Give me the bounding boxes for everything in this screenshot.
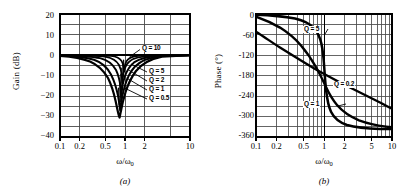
panel-a-x-axis-sub: 0 [131, 160, 134, 167]
panel-a-curve-label-q5: Q = 5 [148, 68, 165, 75]
bode-plot-figure: Gain (dB) 20 10 0 −10 −20 −30 −40 [0, 0, 403, 196]
panel-a-curve-label-q05: Q = 0.5 [148, 95, 170, 102]
panel-a-gain: Gain (dB) 20 10 0 −10 −20 −30 −40 [0, 0, 200, 196]
panel-a-curve-label-q2: Q = 2 [148, 77, 165, 84]
panel-a-caption: (a) [95, 176, 155, 186]
panel-b-x-axis-sub: 0 [330, 160, 333, 167]
panel-b-caption: (b) [294, 176, 354, 186]
panel-b-x-axis-num: ω [315, 156, 321, 166]
panel-b-xtick-6: 10 [377, 142, 403, 151]
panel-b-curve-label-q5: Q = 5 [303, 26, 320, 33]
panel-b-xtick-1: 0.2 [262, 142, 292, 151]
panel-b-x-axis-label: ω/ω0 [274, 156, 374, 167]
panel-a-x-axis-num: ω [116, 156, 122, 166]
panel-b-xtick-4: 2 [330, 142, 360, 151]
panel-a-x-axis-label: ω/ω0 [75, 156, 175, 167]
panel-a-xtick-4: 2 [130, 142, 160, 151]
panel-b-curve-label-q02: Q = 0.2 [333, 81, 355, 88]
panel-b-phase: Phase (°) 0 -60 -120 -180 -240 -300 -360 [200, 0, 403, 196]
panel-a-curve-label-q10: Q = 10 [141, 45, 162, 52]
panel-a-curve-label-q1: Q = 1 [148, 86, 165, 93]
panel-b-curve-label-q1: Q = 1 [303, 101, 320, 108]
